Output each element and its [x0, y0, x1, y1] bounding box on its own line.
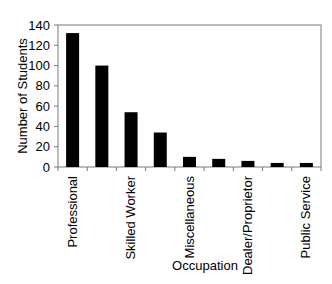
x-tick-label: Professional	[65, 176, 80, 248]
bars	[66, 33, 313, 167]
y-tick-label: 80	[36, 78, 50, 93]
y-tick-label: 40	[36, 119, 50, 134]
bar	[125, 112, 138, 167]
y-axis-title: Number of Students	[15, 38, 30, 154]
y-tick-label: 120	[28, 38, 50, 53]
y-axis: 020406080100120140	[28, 18, 58, 175]
x-tick-label: Miscellaneous	[182, 176, 197, 259]
bar	[212, 159, 225, 167]
x-tick-label: Public Service	[298, 176, 313, 258]
bar	[300, 163, 313, 167]
bar	[241, 161, 254, 167]
x-tick-label: Dealer/Proprietor	[240, 175, 255, 275]
bar	[271, 163, 284, 167]
y-tick-label: 100	[28, 58, 50, 73]
y-tick-label: 140	[28, 18, 50, 33]
y-tick-label: 0	[43, 160, 50, 175]
bar	[95, 66, 108, 167]
bar-chart: 020406080100120140 ProfessionalSkilled W…	[0, 0, 332, 284]
bar	[183, 157, 196, 167]
x-axis-title: Occupation	[172, 258, 238, 273]
bar	[66, 33, 79, 167]
x-tick-label: Skilled Worker	[123, 175, 138, 259]
bar	[154, 133, 167, 167]
y-tick-label: 20	[36, 139, 50, 154]
y-tick-label: 60	[36, 99, 50, 114]
